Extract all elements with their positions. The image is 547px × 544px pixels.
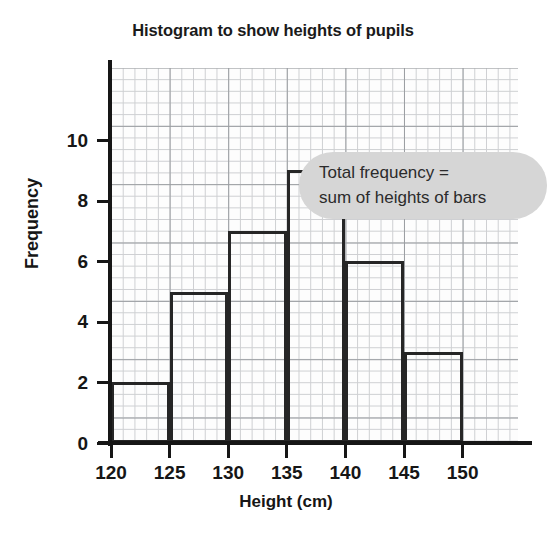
histogram-bar <box>404 352 463 443</box>
histogram-bar <box>345 261 404 443</box>
x-axis-tick: 120 <box>110 443 113 458</box>
x-axis-tick-label: 120 <box>95 462 127 484</box>
x-axis-tick-label: 150 <box>447 462 479 484</box>
x-axis-tick: 135 <box>285 443 288 458</box>
x-axis-tick-label: 145 <box>388 462 420 484</box>
x-axis-tick: 150 <box>461 443 464 458</box>
x-axis-tick-label: 140 <box>330 462 362 484</box>
y-axis-tick: 10 <box>97 139 112 142</box>
x-axis-tick-label: 130 <box>212 462 244 484</box>
y-axis-tick: 6 <box>97 260 112 263</box>
x-axis-title: Height (cm) <box>111 492 461 512</box>
histogram-bar <box>228 231 287 443</box>
x-axis-tick: 130 <box>227 443 230 458</box>
annotation-line-2: sum of heights of bars <box>319 186 547 211</box>
x-axis-tick: 140 <box>344 443 347 458</box>
y-axis-title: Frequency <box>22 154 43 294</box>
x-axis-tick: 125 <box>168 443 171 458</box>
y-axis-tick-label: 0 <box>77 433 88 455</box>
annotation-line-1: Total frequency = <box>319 161 547 186</box>
histogram-bar <box>170 292 229 444</box>
y-axis-tick-label: 10 <box>67 130 88 152</box>
histogram-bar <box>111 382 170 443</box>
x-axis-tick-label: 125 <box>154 462 186 484</box>
chart-title: Histogram to show heights of pupils <box>0 21 546 40</box>
y-axis-tick-label: 4 <box>77 311 88 333</box>
y-axis-tick: 2 <box>97 381 112 384</box>
y-axis-tick: 4 <box>97 321 112 324</box>
plot-area: Total frequency = sum of heights of bars <box>111 68 518 443</box>
y-axis-tick-label: 2 <box>77 372 88 394</box>
y-axis-tick: 8 <box>97 200 112 203</box>
y-axis-line <box>108 60 112 446</box>
x-axis-tick: 145 <box>403 443 406 458</box>
x-axis-line <box>98 441 532 445</box>
y-axis-tick-label: 6 <box>77 251 88 273</box>
annotation-callout: Total frequency = sum of heights of bars <box>299 152 547 219</box>
x-axis-tick-label: 135 <box>271 462 303 484</box>
y-axis-tick-label: 8 <box>77 190 88 212</box>
